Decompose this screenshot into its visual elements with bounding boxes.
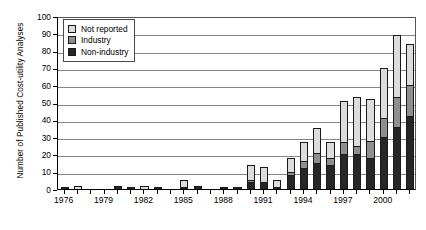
bar-1990[interactable] xyxy=(247,165,255,189)
bar-1994[interactable] xyxy=(300,142,308,189)
chart-container: Number of Published Cost-utility Analyse… xyxy=(0,0,426,230)
x-tick-label-2000: 2000 xyxy=(363,196,403,205)
bar-segment-ind-2001 xyxy=(393,97,401,126)
bar-1992[interactable] xyxy=(273,180,281,189)
y-tick-label-100: 100 xyxy=(25,13,51,21)
bar-segment-notrep-2002 xyxy=(406,44,414,86)
y-tick-label-90: 90 xyxy=(25,30,51,38)
bar-segment-nonind-1998 xyxy=(353,154,361,189)
x-tick-mark-1982 xyxy=(143,190,144,194)
bar-segment-nonind-1996 xyxy=(326,165,334,189)
bar-1983[interactable] xyxy=(154,187,162,189)
bar-1980[interactable] xyxy=(114,186,122,189)
x-tick-label-1997: 1997 xyxy=(323,196,363,205)
legend-item-ind[interactable]: Industry xyxy=(68,35,128,47)
y-tick-label-0: 0 xyxy=(25,186,51,194)
x-tick-mark-1988 xyxy=(223,190,224,194)
y-tick-label-50: 50 xyxy=(25,99,51,107)
bar-segment-notrep-1996 xyxy=(326,142,334,158)
bar-segment-nonind-1976 xyxy=(61,187,69,189)
bar-1989[interactable] xyxy=(233,187,241,189)
bar-1981[interactable] xyxy=(127,187,135,189)
x-tick-mark-1977 xyxy=(77,190,78,194)
bar-segment-ind-1999 xyxy=(366,141,374,158)
y-tick-label-80: 80 xyxy=(25,47,51,55)
gridline-30 xyxy=(58,139,415,140)
bar-segment-notrep-1992 xyxy=(273,180,281,187)
y-tick-label-60: 60 xyxy=(25,82,51,90)
y-tick-label-40: 40 xyxy=(25,116,51,124)
bar-segment-nonind-1992 xyxy=(273,187,281,189)
legend-item-nonind[interactable]: Non-industry xyxy=(68,46,128,58)
chart-legend: Not reportedIndustryNon-industry xyxy=(63,19,135,62)
x-tick-mark-1987 xyxy=(210,190,211,194)
x-tick-mark-1998 xyxy=(356,190,357,194)
legend-swatch-notrep-icon xyxy=(68,25,76,33)
y-tick-label-70: 70 xyxy=(25,64,51,72)
bar-segment-ind-1994 xyxy=(300,161,308,168)
bar-1993[interactable] xyxy=(287,158,295,189)
bar-segment-nonind-1985 xyxy=(180,187,188,189)
bar-segment-notrep-2001 xyxy=(393,35,401,97)
bar-segment-nonind-1991 xyxy=(260,182,268,189)
bar-1991[interactable] xyxy=(260,167,268,189)
bar-2000[interactable] xyxy=(380,68,388,189)
legend-item-notrep[interactable]: Not reported xyxy=(68,23,128,35)
bar-1982[interactable] xyxy=(140,186,148,189)
bar-segment-ind-1998 xyxy=(353,146,361,155)
x-tick-mark-1997 xyxy=(343,190,344,194)
legend-swatch-ind-icon xyxy=(68,36,76,44)
bar-segment-nonind-2002 xyxy=(406,116,414,189)
bar-segment-notrep-2000 xyxy=(380,68,388,118)
bar-segment-notrep-1991 xyxy=(260,167,268,183)
bar-1998[interactable] xyxy=(353,97,361,189)
bar-1999[interactable] xyxy=(366,99,374,189)
x-tick-mark-1984 xyxy=(170,190,171,194)
bar-1985[interactable] xyxy=(180,180,188,189)
x-tick-mark-1976 xyxy=(64,190,65,194)
x-tick-label-1985: 1985 xyxy=(163,196,203,205)
x-tick-label-1991: 1991 xyxy=(243,196,283,205)
bar-2001[interactable] xyxy=(393,35,401,189)
bar-segment-ind-1995 xyxy=(313,153,321,163)
bar-1976[interactable] xyxy=(61,187,69,189)
bar-segment-notrep-1993 xyxy=(287,158,295,172)
x-tick-mark-1983 xyxy=(157,190,158,194)
bar-segment-ind-2000 xyxy=(380,118,388,137)
bar-1997[interactable] xyxy=(340,101,348,189)
bar-2002[interactable] xyxy=(406,44,414,189)
bar-segment-nonind-1980 xyxy=(114,186,122,189)
x-tick-label-1982: 1982 xyxy=(123,196,163,205)
bar-segment-ind-1997 xyxy=(340,142,348,154)
bar-segment-ind-1996 xyxy=(326,158,334,165)
legend-swatch-nonind-icon xyxy=(68,48,76,56)
bar-segment-nonind-1990 xyxy=(247,182,255,189)
x-tick-mark-1985 xyxy=(183,190,184,194)
bar-segment-notrep-1990 xyxy=(247,165,255,181)
bar-segment-nonind-1993 xyxy=(287,175,295,189)
bar-1977[interactable] xyxy=(74,186,82,189)
bar-segment-notrep-1985 xyxy=(180,180,188,187)
x-tick-mark-1992 xyxy=(276,190,277,194)
x-tick-mark-2000 xyxy=(383,190,384,194)
bar-segment-nonind-1999 xyxy=(366,158,374,189)
bar-1995[interactable] xyxy=(313,128,321,189)
bar-segment-notrep-1998 xyxy=(353,97,361,145)
bar-1988[interactable] xyxy=(220,187,228,189)
legend-label-nonind: Non-industry xyxy=(81,48,128,56)
gridline-60 xyxy=(58,87,415,88)
bar-segment-notrep-1999 xyxy=(366,99,374,141)
bar-segment-nonind-2000 xyxy=(380,137,388,189)
y-tick-label-10: 10 xyxy=(25,168,51,176)
bar-segment-nonind-1994 xyxy=(300,168,308,189)
x-tick-label-1988: 1988 xyxy=(203,196,243,205)
bar-segment-nonind-2001 xyxy=(393,127,401,189)
bar-segment-nonind-1981 xyxy=(127,187,135,189)
bar-segment-notrep-1997 xyxy=(340,101,348,143)
x-tick-mark-1981 xyxy=(130,190,131,194)
bar-segment-notrep-1982 xyxy=(140,186,148,189)
bar-1986[interactable] xyxy=(194,186,202,189)
gridline-20 xyxy=(58,156,415,157)
gridline-40 xyxy=(58,122,415,123)
bar-1996[interactable] xyxy=(326,142,334,189)
